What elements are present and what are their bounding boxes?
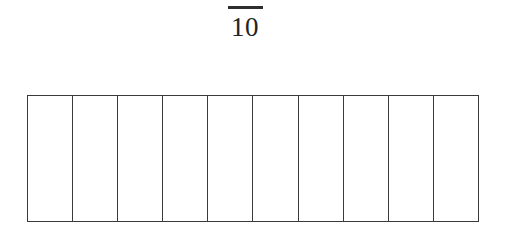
bar-cell[interactable] — [344, 96, 389, 221]
bar-cell[interactable] — [208, 96, 253, 221]
bar-cell[interactable] — [73, 96, 118, 221]
denominator-value: 10 — [219, 13, 271, 41]
bar-cell[interactable] — [163, 96, 208, 221]
partitioned-rectangle — [27, 95, 479, 222]
bar-cell[interactable] — [253, 96, 298, 221]
bar-cell[interactable] — [28, 96, 73, 221]
bar-cell[interactable] — [299, 96, 344, 221]
bar-cell[interactable] — [389, 96, 434, 221]
bar-cell[interactable] — [434, 96, 478, 221]
bar-cell[interactable] — [118, 96, 163, 221]
fraction-bar-icon — [228, 6, 263, 9]
fraction-bar-figure: 10 — [0, 0, 505, 231]
denominator-label-group: 10 — [219, 6, 271, 41]
